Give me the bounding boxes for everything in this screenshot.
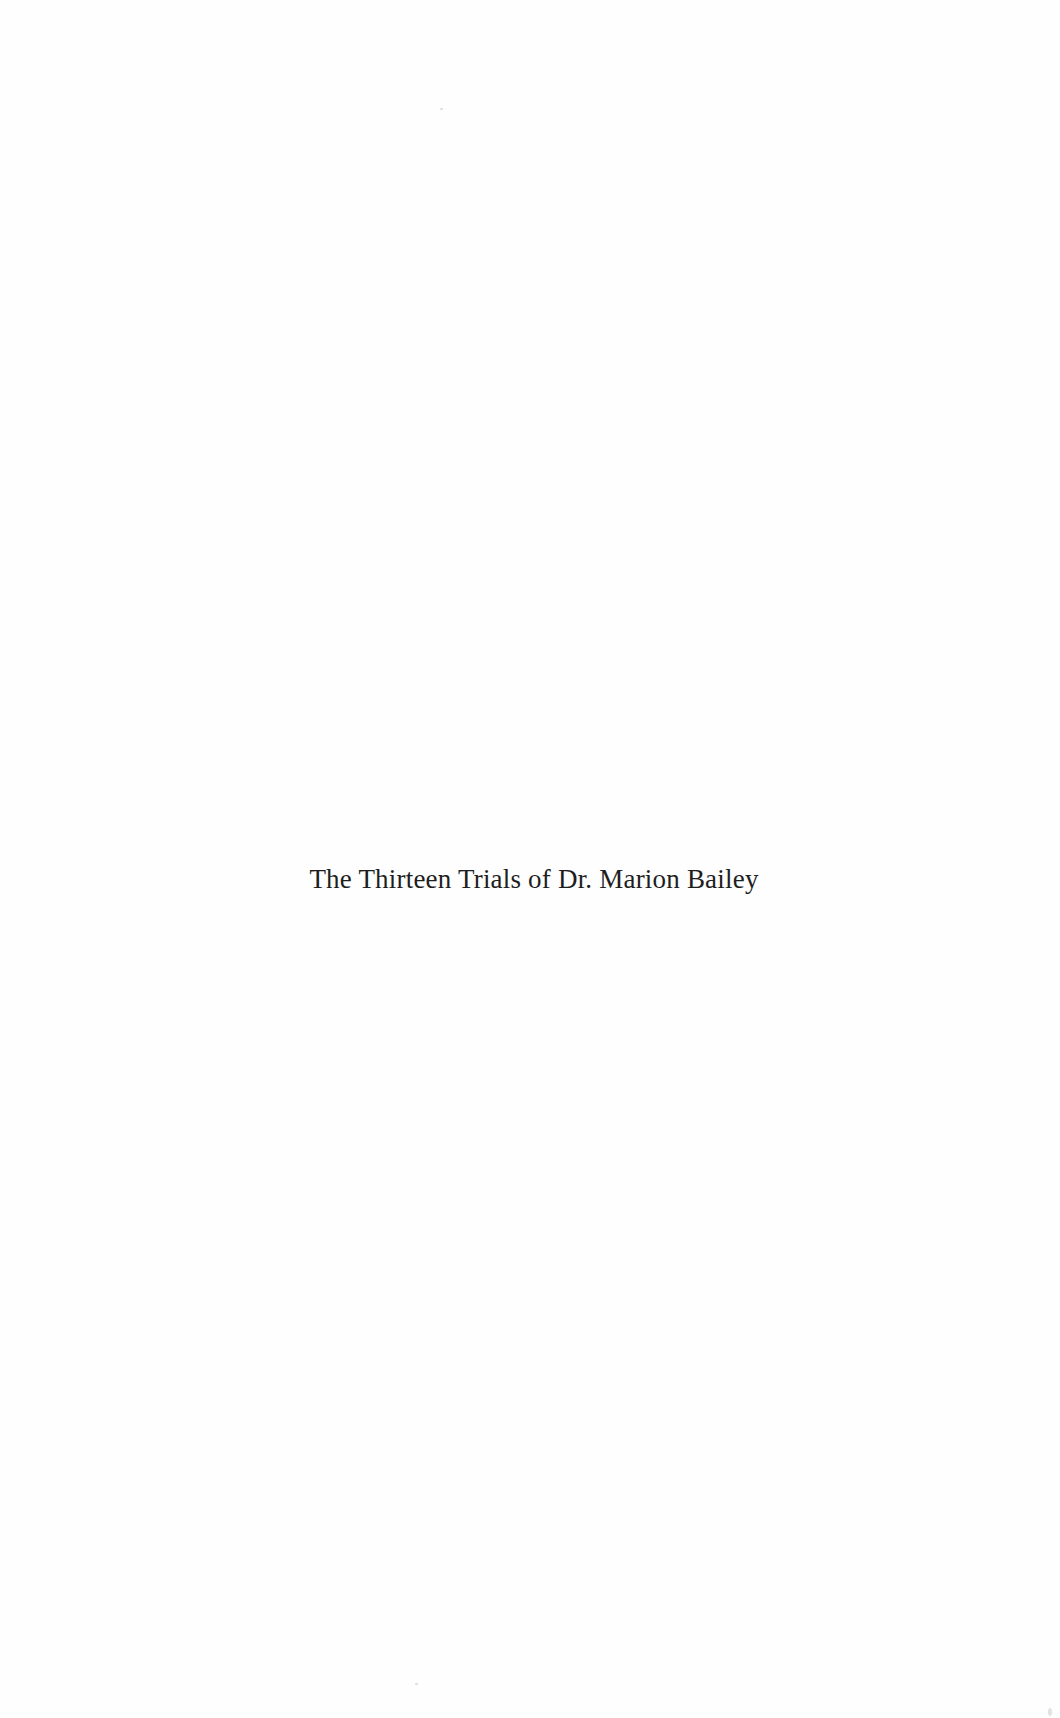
scan-speck xyxy=(1048,1708,1052,1716)
scan-speck xyxy=(415,1683,418,1685)
scan-speck xyxy=(440,108,443,110)
half-title: The Thirteen Trials of Dr. Marion Bailey xyxy=(0,862,1060,896)
book-page: The Thirteen Trials of Dr. Marion Bailey xyxy=(0,0,1060,1718)
